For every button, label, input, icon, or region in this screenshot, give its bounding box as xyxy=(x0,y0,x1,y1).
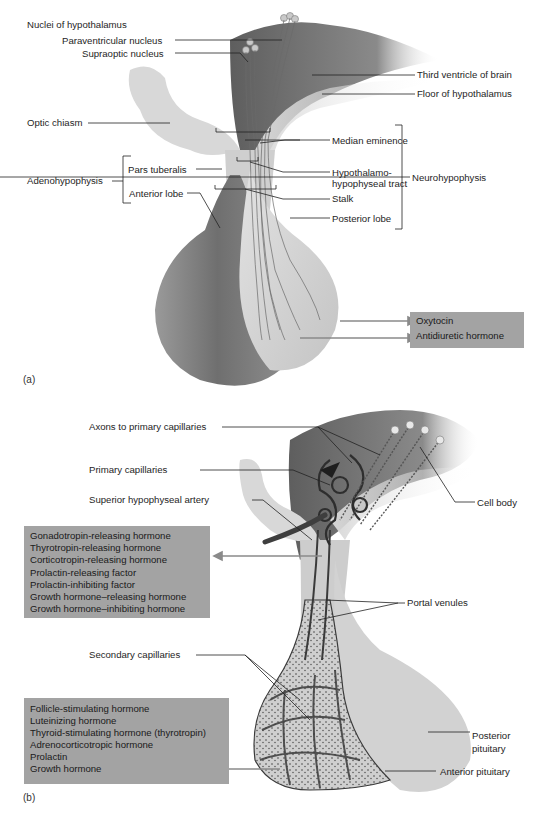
hormone-oxytocin: Oxytocin xyxy=(416,315,518,327)
releasing-hormone-item: Growth hormone–releasing hormone xyxy=(30,591,204,603)
releasing-hormone-item: Thyrotropin-releasing hormone xyxy=(30,542,204,554)
label-posterior-lobe: Posterior lobe xyxy=(332,213,391,224)
label-hypothalamo-hypophyseal-tract-1: Hypothalamo- xyxy=(332,167,392,178)
label-axons-to-primary-capillaries: Axons to primary capillaries xyxy=(89,421,206,432)
label-cell-body: Cell body xyxy=(477,497,517,508)
label-floor-of-hypothalamus: Floor of hypothalamus xyxy=(417,88,512,99)
label-pars-tuberalis: Pars tuberalis xyxy=(128,164,187,175)
label-anterior-pituitary: Anterior pituitary xyxy=(440,766,510,777)
panel-a-tag: (a) xyxy=(23,374,35,385)
panel-a-drawing xyxy=(0,13,440,386)
label-hypothalamo-hypophyseal-tract-2: hypophyseal tract xyxy=(332,178,407,189)
label-supraoptic-nucleus: Supraoptic nucleus xyxy=(82,48,164,59)
releasing-hormone-item: Prolactin-releasing factor xyxy=(30,567,204,579)
label-paraventricular-nucleus: Paraventricular nucleus xyxy=(62,35,162,46)
anterior-hormone-item: Thyroid-stimulating hormone (thyrotropin… xyxy=(30,727,223,739)
anterior-hormone-item: Luteinizing hormone xyxy=(30,715,223,727)
label-posterior-pituitary-1: Posterior xyxy=(472,730,510,741)
label-posterior-pituitary-2: pituitary xyxy=(472,743,506,754)
releasing-hormone-item: Corticotropin-releasing hormone xyxy=(30,554,204,566)
anterior-hormone-item: Follicle-stimulating hormone xyxy=(30,703,223,715)
anterior-hormones-box: Follicle-stimulating hormone Luteinizing… xyxy=(24,698,229,784)
label-adenohypophysis: Adenohypophysis xyxy=(27,175,103,186)
pituitary-diagram: Nuclei of hypothalamus Paraventricular n… xyxy=(0,0,541,823)
panel-b-tag: (b) xyxy=(23,792,35,803)
label-nuclei-of-hypothalamus: Nuclei of hypothalamus xyxy=(27,19,127,30)
label-neurohypophysis: Neurohypophysis xyxy=(412,172,486,183)
posterior-hormone-box: Oxytocin Antidiuretic hormone xyxy=(410,312,524,348)
label-stalk: Stalk xyxy=(332,193,353,204)
label-secondary-capillaries: Secondary capillaries xyxy=(89,649,180,660)
anterior-hormone-item: Adrenocorticotropic hormone xyxy=(30,739,223,751)
label-primary-capillaries: Primary capillaries xyxy=(89,464,167,475)
releasing-hormones-box: Gonadotropin-releasing hormone Thyrotrop… xyxy=(24,526,210,618)
anterior-hormone-item: Growth hormone xyxy=(30,763,223,775)
anterior-hormone-item: Prolactin xyxy=(30,751,223,763)
label-optic-chiasm: Optic chiasm xyxy=(27,117,82,128)
label-third-ventricle: Third ventricle of brain xyxy=(417,69,512,80)
releasing-hormone-item: Gonadotropin-releasing hormone xyxy=(30,530,204,542)
hormone-antidiuretic: Antidiuretic hormone xyxy=(416,330,518,342)
label-portal-venules: Portal venules xyxy=(407,597,468,608)
releasing-hormone-item: Growth hormone–inhibiting hormone xyxy=(30,603,204,615)
releasing-hormone-item: Prolactin-inhibiting factor xyxy=(30,579,204,591)
label-superior-hypophyseal-artery: Superior hypophyseal artery xyxy=(89,494,209,505)
label-anterior-lobe: Anterior lobe xyxy=(129,188,183,199)
label-median-eminence: Median eminence xyxy=(332,135,408,146)
